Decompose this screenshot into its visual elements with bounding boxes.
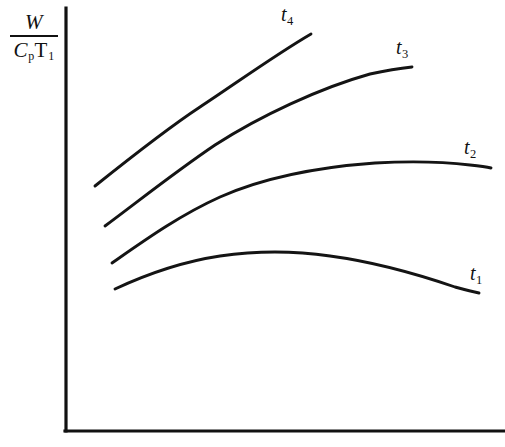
- fraction-bar: [10, 35, 58, 37]
- curve-label-t3-subscript: 3: [402, 47, 409, 61]
- plot-area: [0, 0, 505, 447]
- y-axis-label-t-symbol: T: [35, 38, 48, 62]
- curve-t3: [105, 67, 412, 226]
- curve-label-t4-subscript: 4: [287, 14, 294, 28]
- y-axis-label-denominator: CpT1: [6, 39, 62, 61]
- y-axis-label: W CpT1: [6, 11, 62, 61]
- y-axis-label-cp-subscript: p: [28, 49, 35, 63]
- curve-label-t4-symbol: t: [281, 3, 287, 25]
- curve-label-t3: t3: [396, 36, 408, 59]
- curve-label-t4: t4: [281, 3, 293, 26]
- curve-label-t1-subscript: 1: [476, 273, 483, 287]
- curve-label-t1: t1: [470, 262, 482, 285]
- curve-label-t1-symbol: t: [470, 262, 476, 284]
- y-axis-label-cp-symbol: C: [13, 38, 27, 62]
- curve-label-t3-symbol: t: [396, 36, 402, 58]
- curve-label-t2-subscript: 2: [470, 147, 477, 161]
- y-axis-label-t-subscript: 1: [48, 49, 55, 63]
- chart-figure: W CpT1 t4 t3 t2 t1: [0, 0, 505, 447]
- curve-t1: [115, 252, 479, 293]
- y-axis-label-numerator: W: [6, 11, 62, 34]
- curve-label-t2-symbol: t: [464, 136, 470, 158]
- curve-label-t2: t2: [464, 136, 476, 159]
